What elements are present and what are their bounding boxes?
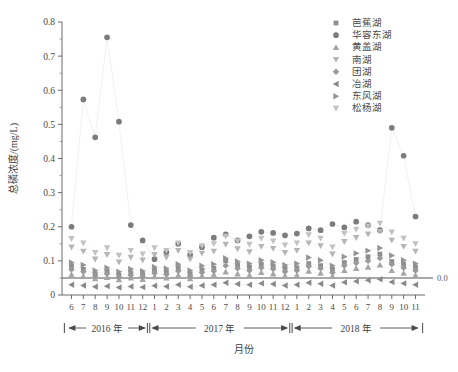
data-point [294, 231, 300, 237]
data-point [333, 69, 339, 75]
data-point [104, 35, 110, 41]
year-arrow-left-icon [151, 325, 158, 331]
data-point [365, 247, 371, 253]
x-tick-label: 2 [306, 302, 311, 312]
data-point [139, 251, 145, 257]
data-point [270, 246, 276, 252]
data-point [68, 236, 74, 242]
total-phosphorus-scatter-chart: 00.10.20.30.40.50.60.70.8678910111212345… [0, 0, 458, 372]
x-tick-label: 3 [176, 302, 181, 312]
x-tick-label: 9 [390, 302, 395, 312]
data-point [353, 219, 359, 225]
data-point [270, 230, 276, 236]
data-point [282, 250, 288, 256]
data-point [163, 283, 169, 289]
data-point [329, 282, 335, 288]
data-point [139, 284, 145, 290]
data-point [246, 242, 252, 248]
x-tick-label: 7 [223, 302, 228, 312]
data-point [353, 235, 359, 241]
y-tick-label: 0.7 [43, 52, 55, 62]
data-point [329, 245, 335, 251]
x-tick-label: 1 [295, 302, 300, 312]
data-point [365, 232, 371, 238]
data-point [80, 240, 86, 246]
data-point [116, 284, 122, 290]
data-point [306, 254, 312, 260]
data-point [163, 255, 169, 261]
data-point [341, 279, 347, 285]
data-point [333, 32, 339, 38]
data-point [412, 249, 418, 255]
data-point [306, 232, 312, 238]
data-point [333, 57, 339, 63]
data-point [413, 214, 419, 220]
data-point [389, 230, 395, 236]
data-point [377, 276, 383, 282]
legend-item-label: 松杨湖 [352, 102, 382, 113]
data-point [92, 250, 98, 256]
x-tick-label: 9 [105, 302, 110, 312]
data-point [389, 238, 395, 244]
data-point [389, 279, 395, 285]
data-point [80, 282, 86, 288]
data-point [246, 249, 252, 255]
data-point [258, 280, 264, 286]
data-point [199, 251, 205, 257]
data-point [92, 284, 98, 290]
y-tick-label: 0 [50, 290, 55, 300]
data-point [139, 258, 145, 264]
legend-item-label: 团湖 [352, 67, 372, 77]
y-tick-label: 0.6 [43, 86, 55, 96]
data-point [400, 280, 406, 286]
data-point [222, 242, 228, 248]
data-point [306, 279, 312, 285]
x-tick-label: 4 [188, 302, 193, 312]
x-tick-label: 11 [411, 302, 420, 312]
y-tick-label: 0.4 [43, 154, 55, 164]
data-point [175, 282, 181, 288]
data-point [318, 227, 324, 233]
x-tick-label: 11 [126, 302, 135, 312]
x-axis-title: 月份 [234, 344, 254, 355]
data-point [116, 260, 122, 266]
year-arrow-right-icon [139, 325, 146, 331]
data-point [333, 93, 339, 99]
y-axis-title: 总磷浓度/(mg/L) [7, 123, 20, 194]
data-point [333, 106, 339, 112]
data-point [69, 224, 75, 230]
year-arrow-right-icon [281, 325, 288, 331]
year-group-label: 2018 年 [341, 323, 372, 334]
data-point [389, 267, 395, 273]
y-tick-label: 0.1 [43, 256, 55, 266]
chart-container: 00.10.20.30.40.50.60.70.8678910111212345… [0, 0, 458, 372]
threshold-label: 0.0 [437, 273, 448, 283]
data-point [211, 235, 217, 241]
x-tick-label: 9 [247, 302, 252, 312]
data-point [222, 269, 228, 275]
data-point [140, 238, 146, 244]
data-point [389, 125, 395, 131]
data-point [353, 278, 359, 284]
data-point [104, 245, 110, 251]
data-point [282, 232, 288, 238]
x-tick-label: 8 [235, 302, 240, 312]
data-point [199, 282, 205, 288]
x-tick-label: 5 [200, 302, 205, 312]
data-point [116, 253, 122, 259]
x-tick-label: 4 [330, 302, 335, 312]
legend-item-label: 芭蕉湖 [352, 17, 382, 28]
x-tick-label: 5 [342, 302, 347, 312]
year-arrow-left-icon [68, 325, 75, 331]
data-point [270, 238, 276, 244]
data-point [294, 282, 300, 288]
x-tick-label: 10 [257, 302, 267, 312]
data-point [412, 282, 418, 288]
y-tick-label: 0.5 [43, 120, 55, 130]
data-point [104, 283, 110, 289]
year-group-label: 2016 年 [91, 323, 122, 334]
x-tick-label: 10 [114, 302, 124, 312]
x-tick-label: 11 [269, 302, 278, 312]
data-point [151, 283, 157, 289]
x-tick-label: 2 [164, 302, 169, 312]
